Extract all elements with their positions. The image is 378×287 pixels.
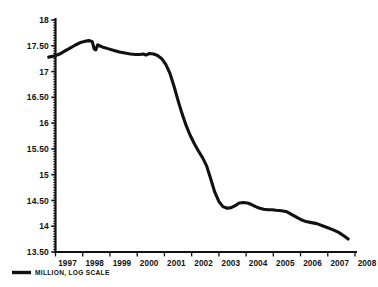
- x-axis-tick-label: 2008: [358, 259, 377, 268]
- x-axis-tick-label: 2002: [194, 259, 213, 268]
- x-axis-tick-label: 2005: [276, 259, 295, 268]
- y-axis-tick-label: 13.50: [27, 247, 49, 257]
- y-axis-tick-label: 14.50: [27, 196, 49, 206]
- x-axis-tick-label: 1997: [58, 259, 77, 268]
- y-axis-tick-label: 15.50: [27, 144, 49, 154]
- x-axis-tick-label: 2003: [222, 259, 241, 268]
- chart-background: [0, 0, 378, 287]
- x-axis-tick-label: 2007: [330, 259, 349, 268]
- chart-container: 13.501414.501515.501616.501717.5018 1997…: [0, 0, 378, 287]
- x-axis-tick-label: 2004: [249, 259, 268, 268]
- line-chart-svg: 13.501414.501515.501616.501717.5018 1997…: [0, 0, 378, 287]
- y-axis-tick-label: 18: [39, 15, 49, 25]
- y-axis-tick-label: 14: [39, 221, 49, 231]
- y-axis-tick-label: 17: [39, 67, 49, 77]
- legend-label: MILLION, LOG SCALE: [35, 269, 110, 277]
- x-axis-tick-label: 1998: [85, 259, 104, 268]
- chart-canvas: 13.501414.501515.501616.501717.5018 1997…: [0, 0, 378, 287]
- y-axis-tick-label: 16: [39, 118, 49, 128]
- x-axis-tick-label: 2006: [303, 259, 322, 268]
- y-axis-tick-label: 16.50: [27, 92, 49, 102]
- y-axis-tick-label: 15: [39, 170, 49, 180]
- x-axis-tick-label: 1999: [113, 259, 132, 268]
- x-axis-tick-label: 2001: [167, 259, 186, 268]
- y-axis-tick-label: 17.50: [27, 41, 49, 51]
- x-axis-tick-label: 2000: [140, 259, 159, 268]
